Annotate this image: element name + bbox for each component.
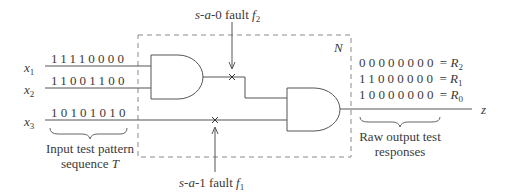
wire-gate1-to-gate2 — [203, 77, 287, 98]
input-caption-line1: Input test pattern — [42, 142, 138, 155]
fault-f1-label: s-a-1 fault f1 — [179, 176, 244, 189]
input-pattern-x1: 11110000 — [51, 52, 127, 65]
output-brace — [360, 117, 440, 127]
input-caption-line2: sequence T — [42, 157, 138, 170]
output-label-z: z — [481, 103, 486, 116]
and-gate-1 — [151, 55, 203, 99]
input-label-x1: x1 — [24, 61, 34, 74]
input-label-x3: x3 — [24, 115, 34, 128]
network-label: N — [334, 41, 343, 54]
input-label-x2: x2 — [24, 83, 34, 96]
output-response-r1: 11000000 = R1 — [359, 72, 462, 85]
output-caption-line2: responses — [352, 145, 448, 158]
fault-f2-label: s-a-0 fault f2 — [195, 8, 260, 21]
input-pattern-x3: 10101010 — [51, 106, 129, 119]
input-pattern-x2: 11001100 — [51, 74, 128, 87]
output-response-r2: 00000000 = R2 — [359, 56, 463, 69]
output-response-r0: 10000000 = R0 — [359, 88, 463, 101]
input-brace — [50, 128, 127, 139]
and-gate-2 — [287, 88, 340, 131]
output-caption-line1: Raw output test — [352, 130, 448, 143]
